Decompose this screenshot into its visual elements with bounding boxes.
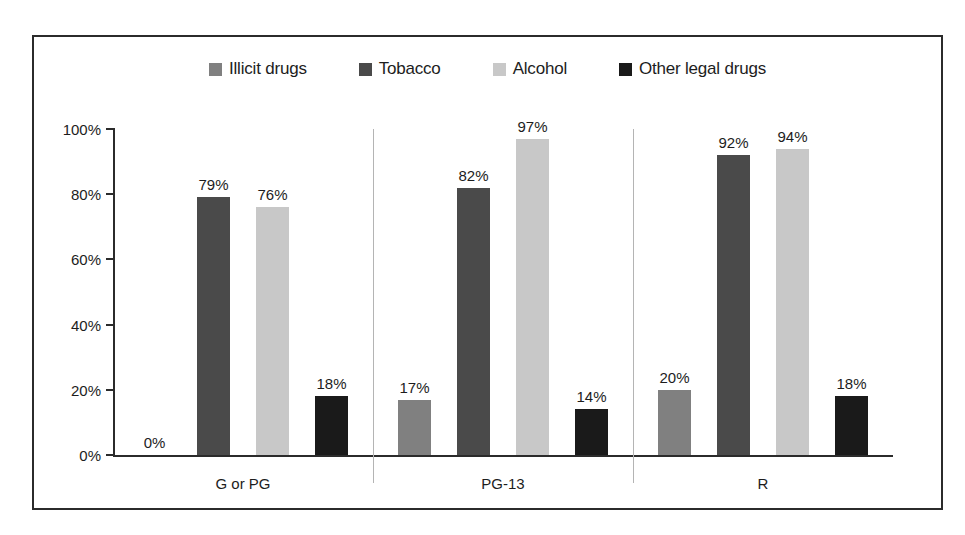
x-axis-line [113,455,893,457]
legend-swatch-icon [359,63,372,76]
bar-slot: 82% [457,129,490,455]
bar[interactable] [516,139,549,455]
y-axis-tick-label: 100% [63,121,101,138]
bar-slot: 20% [658,129,691,455]
y-axis-tick-label: 20% [71,381,101,398]
bar-slot: 17% [398,129,431,455]
bar[interactable] [256,207,289,455]
bar-value-label: 97% [517,118,547,135]
legend-item-illicit-drugs[interactable]: Illicit drugs [209,59,307,79]
bar-slot: 14% [575,129,608,455]
y-axis-tick-label: 0% [79,447,101,464]
legend-label: Illicit drugs [229,59,307,79]
bar[interactable] [457,188,490,455]
x-axis-category-label: R [633,475,893,492]
x-axis-category-label: PG-13 [373,475,633,492]
legend-item-other-legal-drugs[interactable]: Other legal drugs [619,59,766,79]
legend-swatch-icon [493,63,506,76]
y-axis-tick-label: 60% [71,251,101,268]
bar-value-label: 18% [836,375,866,392]
x-axis-category-label: G or PG [113,475,373,492]
bar-group: 20%92%94%18%R [633,129,893,455]
legend-item-tobacco[interactable]: Tobacco [359,59,441,79]
bar-value-label: 92% [718,134,748,151]
plot-area: 0%20%40%60%80%100% 0%79%76%18%G or PG17%… [113,129,893,455]
bar-slot: 0% [138,129,171,455]
bar-value-label: 20% [659,369,689,386]
bar[interactable] [658,390,691,455]
legend-label: Other legal drugs [639,59,766,79]
bar-slot: 92% [717,129,750,455]
bar[interactable] [398,400,431,455]
legend-label: Tobacco [379,59,441,79]
bar[interactable] [197,197,230,455]
bar-value-label: 94% [777,128,807,145]
legend-item-alcohol[interactable]: Alcohol [493,59,567,79]
bar-slot: 79% [197,129,230,455]
legend-label: Alcohol [513,59,567,79]
bar-value-label: 17% [399,379,429,396]
bar-slot: 18% [835,129,868,455]
bar[interactable] [575,409,608,455]
chart-legend: Illicit drugs Tobacco Alcohol Other lega… [34,59,941,79]
bar[interactable] [835,396,868,455]
bar-value-label: 79% [198,176,228,193]
bar[interactable] [776,149,809,455]
y-axis-tick-label: 40% [71,316,101,333]
bar-group: 17%82%97%14%PG-13 [373,129,633,455]
bar-value-label: 82% [458,167,488,184]
bar-group: 0%79%76%18%G or PG [113,129,373,455]
legend-swatch-icon [209,63,222,76]
legend-swatch-icon [619,63,632,76]
bar-value-label: 0% [144,434,166,451]
bar[interactable] [315,396,348,455]
chart-figure: Illicit drugs Tobacco Alcohol Other lega… [32,35,943,510]
bar-slot: 18% [315,129,348,455]
bar-value-label: 18% [316,375,346,392]
bar-value-label: 76% [257,186,287,203]
bar-slot: 94% [776,129,809,455]
y-axis-tick-label: 80% [71,186,101,203]
bar-slot: 76% [256,129,289,455]
bar-slot: 97% [516,129,549,455]
bar-value-label: 14% [576,388,606,405]
bar[interactable] [717,155,750,455]
